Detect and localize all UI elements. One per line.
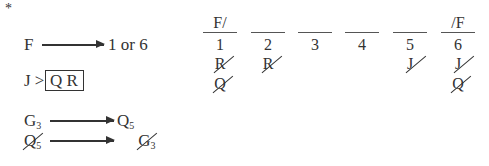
crossed-entry: Q xyxy=(441,75,475,93)
rule4-left-crossed: Q5 xyxy=(24,132,41,149)
crossed-entry: R xyxy=(251,55,285,73)
slot-line xyxy=(203,32,237,33)
rule2-block: Q R xyxy=(50,72,78,89)
rule1-left: F xyxy=(24,36,33,53)
asterisk-marker: * xyxy=(5,0,12,17)
crossed-entry: J xyxy=(441,55,475,73)
slot-number: 5 xyxy=(393,36,427,54)
slot-number: 6 xyxy=(441,36,475,54)
rule1-right: 1 or 6 xyxy=(108,36,148,53)
slot-number: 2 xyxy=(251,36,285,54)
crossed-entry: J xyxy=(393,55,427,73)
slot-label: F/ xyxy=(203,14,237,32)
slot-number: 3 xyxy=(298,36,332,54)
slot-line xyxy=(393,32,427,33)
slot-line xyxy=(298,32,332,33)
arrow-icon xyxy=(42,44,104,46)
slot-number: 4 xyxy=(345,36,379,54)
rule2-left: J > xyxy=(24,72,44,89)
slot-line xyxy=(441,32,475,33)
rule3-left: G3 xyxy=(24,112,41,129)
arrow-icon xyxy=(50,140,114,142)
slot-line xyxy=(251,32,285,33)
rule-contrapositive: Q5 G3 xyxy=(0,0,489,18)
arrow-icon xyxy=(50,120,114,122)
slot-label: /F xyxy=(441,14,475,32)
crossed-entry: Q xyxy=(203,75,237,93)
slot-line xyxy=(345,32,379,33)
crossed-entry: R xyxy=(203,55,237,73)
rule4-right-crossed: G3 xyxy=(138,132,155,149)
rule3-right: Q5 xyxy=(117,112,134,129)
slot-number: 1 xyxy=(203,36,237,54)
